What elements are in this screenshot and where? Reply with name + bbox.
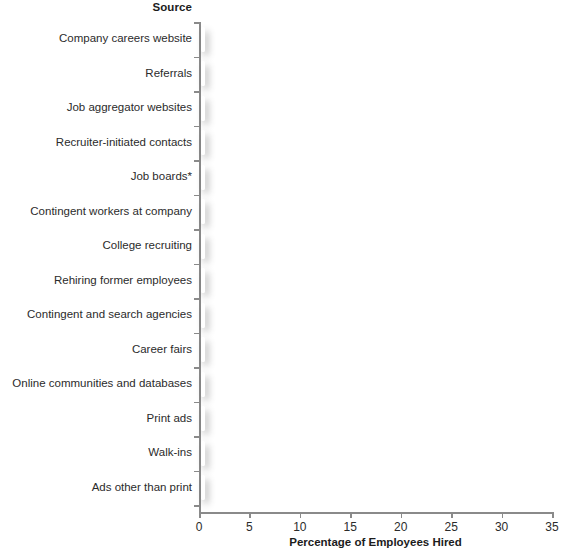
x-tick-label-0: 0: [196, 520, 203, 534]
bar-fill: [201, 27, 205, 52]
y-tick-6: [194, 229, 200, 231]
category-label-8: Contingent and search agencies: [0, 308, 192, 320]
x-tick-label-35: 35: [545, 520, 558, 534]
x-tick-label-20: 20: [394, 520, 407, 534]
bar-9[interactable]: [201, 337, 230, 362]
bar-fill: [201, 303, 205, 328]
category-label-9: Career fairs: [0, 343, 192, 355]
x-tick-30: [502, 512, 504, 518]
bar-fill: [201, 441, 205, 466]
x-axis-title: Percentage of Employees Hired: [199, 536, 552, 548]
category-label-3: Recruiter-initiated contacts: [0, 136, 192, 148]
x-tick-20: [401, 512, 403, 518]
bar-5[interactable]: [201, 199, 290, 224]
x-tick-5: [249, 512, 251, 518]
category-label-0: Company careers website: [0, 32, 192, 44]
plot-area: 05101520253035: [199, 22, 559, 512]
x-tick-15: [350, 512, 352, 518]
category-label-11: Print ads: [0, 412, 192, 424]
x-tick-35: [552, 512, 554, 518]
bar-12[interactable]: [201, 441, 215, 466]
bar-fill: [201, 130, 205, 155]
y-tick-10: [194, 367, 200, 369]
bar-6[interactable]: [201, 234, 286, 259]
bar-4[interactable]: [201, 165, 300, 190]
y-tick-3: [194, 126, 200, 128]
bar-2[interactable]: [201, 96, 374, 121]
bar-fill: [201, 475, 205, 500]
category-label-5: Contingent workers at company: [0, 205, 192, 217]
bar-fill: [201, 199, 205, 224]
y-tick-8: [194, 298, 200, 300]
bar-fill: [201, 406, 205, 431]
category-label-13: Ads other than print: [0, 481, 192, 493]
y-tick-7: [194, 264, 200, 266]
bar-fill: [201, 96, 205, 121]
y-tick-9: [194, 333, 200, 335]
y-tick-11: [194, 402, 200, 404]
bar-3[interactable]: [201, 130, 315, 155]
bar-fill: [201, 337, 205, 362]
bar-8[interactable]: [201, 303, 236, 328]
bar-11[interactable]: [201, 406, 221, 431]
y-tick-12: [194, 436, 200, 438]
category-label-7: Rehiring former employees: [0, 274, 192, 286]
bar-fill: [201, 61, 205, 86]
category-label-4: Job boards*: [0, 170, 192, 182]
x-tick-label-5: 5: [246, 520, 253, 534]
x-tick-label-30: 30: [495, 520, 508, 534]
category-label-10: Online communities and databases: [0, 377, 192, 389]
x-tick-label-10: 10: [293, 520, 306, 534]
y-tick-0: [194, 22, 200, 24]
x-axis-line: [199, 512, 552, 514]
category-label-6: College recruiting: [0, 239, 192, 251]
y-tick-4: [194, 160, 200, 162]
x-tick-10: [300, 512, 302, 518]
x-tick-0: [199, 512, 201, 518]
bar-7[interactable]: [201, 268, 269, 293]
category-label-1: Referrals: [0, 67, 192, 79]
y-tick-2: [194, 91, 200, 93]
x-tick-label-25: 25: [444, 520, 457, 534]
bar-fill: [201, 268, 205, 293]
category-label-12: Walk-ins: [0, 446, 192, 458]
y-tick-13: [194, 471, 200, 473]
y-tick-5: [194, 195, 200, 197]
bar-chart: Source 05101520253035 Company careers we…: [0, 0, 561, 558]
x-tick-label-15: 15: [344, 520, 357, 534]
bar-fill: [201, 372, 205, 397]
bar-10[interactable]: [201, 372, 229, 397]
y-tick-14: [194, 505, 200, 507]
bar-fill: [201, 234, 205, 259]
y-tick-1: [194, 57, 200, 59]
category-label-2: Job aggregator websites: [0, 101, 192, 113]
x-tick-25: [451, 512, 453, 518]
bar-13[interactable]: [201, 475, 212, 500]
bar-fill: [201, 165, 205, 190]
y-axis-title: Source: [0, 1, 192, 13]
bar-0[interactable]: [201, 27, 516, 52]
bar-1[interactable]: [201, 61, 424, 86]
